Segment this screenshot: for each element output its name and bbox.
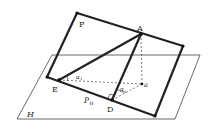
projection-lines (59, 34, 142, 100)
point-D (110, 98, 114, 102)
line-A-E (59, 34, 141, 80)
point-P-tl (75, 11, 78, 14)
plane-p (47, 13, 183, 116)
point-P-br (153, 114, 156, 117)
point-P-bl (45, 75, 48, 78)
label-angle-alpha: α (120, 86, 124, 92)
label-point-a-lower: a (144, 81, 148, 89)
label-plane-h: H (26, 110, 35, 119)
label-point-a-upper: A (136, 24, 143, 33)
line-E-a (59, 80, 142, 84)
line-A-D (112, 34, 141, 100)
label-plane-p: P (79, 20, 85, 29)
label-trace-ph-sub: H (90, 101, 94, 106)
line-A-a (141, 34, 142, 84)
point-P-tr (181, 44, 184, 47)
point-E (57, 78, 61, 82)
point-a (141, 83, 144, 86)
label-angle-alpha1-sub: 1 (80, 76, 82, 81)
label-point-d: D (107, 105, 113, 114)
label-point-e: E (52, 85, 58, 94)
projection-diagram: P A E D a H P H α 1 α (0, 0, 215, 139)
